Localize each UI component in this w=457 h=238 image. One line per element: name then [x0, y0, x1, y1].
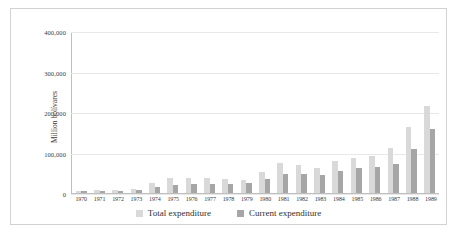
y-axis-tick-label: 300,000: [44, 69, 66, 76]
bar-current: [393, 164, 399, 193]
x-axis-tick-label: 1985: [348, 196, 366, 202]
x-axis-tick-label: 1971: [90, 196, 108, 202]
gridline: [71, 194, 439, 195]
bar-current: [81, 191, 87, 193]
x-axis-tick-label: 1979: [238, 196, 256, 202]
bar-group: [347, 32, 365, 193]
legend-swatch: [136, 210, 143, 217]
x-axis-tick-label: 1989: [422, 196, 440, 202]
bar-current: [375, 167, 381, 193]
legend-label: Total expenditure: [148, 208, 211, 218]
x-axis-tick-labels: 1970197119721973197419751976197719781979…: [72, 196, 440, 202]
x-axis-tick-label: 1983: [311, 196, 329, 202]
bar-current: [430, 129, 436, 193]
bar-current: [320, 175, 326, 193]
bar-group: [384, 32, 402, 193]
bar-group: [127, 32, 145, 193]
x-axis-tick-label: 1978: [219, 196, 237, 202]
bar-groups: [72, 32, 439, 193]
x-axis-tick-label: 1988: [403, 196, 421, 202]
bar-current: [246, 183, 252, 193]
bar-group: [219, 32, 237, 193]
bar-group: [310, 32, 328, 193]
chart-figure: Million bolívares 0100,000200,000300,000…: [10, 8, 447, 225]
bar-group: [329, 32, 347, 193]
bar-current: [173, 185, 179, 193]
bar-current: [100, 191, 106, 193]
bar-group: [90, 32, 108, 193]
bar-current: [338, 171, 344, 193]
x-axis-tick-label: 1975: [164, 196, 182, 202]
y-axis-tick-label: 200,000: [44, 110, 66, 117]
x-axis-tick-label: 1977: [201, 196, 219, 202]
x-axis-tick-label: 1984: [330, 196, 348, 202]
bar-group: [164, 32, 182, 193]
bar-current: [191, 184, 197, 193]
bar-group: [421, 32, 439, 193]
bar-current: [136, 190, 142, 193]
bar-current: [356, 168, 362, 193]
bar-current: [228, 184, 234, 193]
bar-group: [182, 32, 200, 193]
x-axis-tick-label: 1987: [385, 196, 403, 202]
bar-current: [118, 191, 124, 193]
chart-legend: Total expenditureCurrent expenditure: [11, 208, 446, 218]
x-axis-tick-label: 1973: [127, 196, 145, 202]
bar-group: [274, 32, 292, 193]
y-axis-tick-label: 400,000: [44, 29, 66, 36]
bar-group: [255, 32, 273, 193]
bar-current: [301, 174, 307, 193]
bar-current: [155, 187, 161, 193]
legend-swatch: [237, 210, 244, 217]
bar-group: [292, 32, 310, 193]
legend-label: Current expenditure: [249, 208, 321, 218]
x-axis-tick-label: 1972: [109, 196, 127, 202]
x-axis-tick-label: 1982: [293, 196, 311, 202]
bar-group: [200, 32, 218, 193]
bar-group: [145, 32, 163, 193]
bar-current: [283, 174, 289, 193]
y-axis-tick-label: 0: [63, 191, 66, 198]
legend-item: Total expenditure: [136, 208, 211, 218]
x-axis-tick-label: 1986: [367, 196, 385, 202]
bar-group: [109, 32, 127, 193]
y-axis-title: Million bolívares: [50, 91, 59, 143]
bar-group: [237, 32, 255, 193]
x-axis-tick-label: 1970: [72, 196, 90, 202]
y-axis-tick-label: 100,000: [44, 150, 66, 157]
x-axis-tick-label: 1981: [274, 196, 292, 202]
bar-group: [366, 32, 384, 193]
bar-group: [72, 32, 90, 193]
x-axis-tick-label: 1974: [146, 196, 164, 202]
bar-group: [402, 32, 420, 193]
bar-current: [411, 149, 417, 193]
bar-current: [265, 179, 271, 193]
legend-item: Current expenditure: [237, 208, 321, 218]
x-axis-tick-label: 1976: [182, 196, 200, 202]
plot-area: 0100,000200,000300,000400,000: [71, 32, 439, 194]
bar-current: [210, 184, 216, 193]
x-axis-tick-label: 1980: [256, 196, 274, 202]
